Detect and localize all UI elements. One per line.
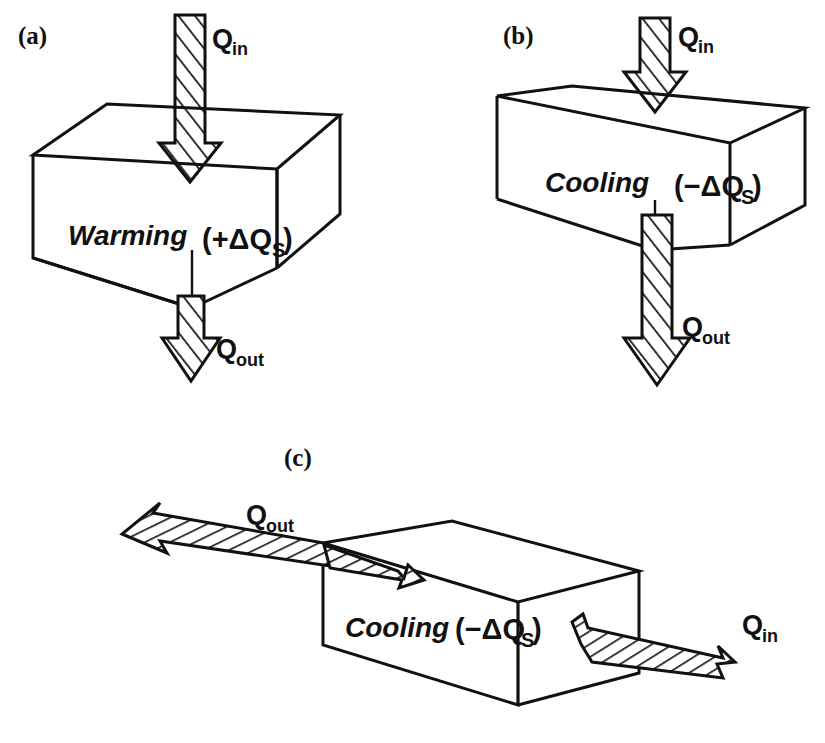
panel-c-label: (c) [284, 444, 312, 472]
panel-b-label: (b) [503, 22, 534, 50]
qout-subscript: out [266, 516, 294, 536]
figure-root: (a) Q in Warming (+ΔQ S [0, 0, 825, 743]
panel-b-storage-expr: (−ΔQ [674, 170, 744, 202]
panel-b-state-word: Cooling [545, 167, 649, 198]
qin-symbol: Q [212, 24, 233, 54]
qout-symbol: Q [682, 312, 703, 342]
qin-subscript: in [232, 39, 248, 59]
heat-storage-diagram: (a) Q in Warming (+ΔQ S [0, 0, 825, 743]
qout-symbol: Q [246, 500, 267, 530]
qin-symbol: Q [678, 22, 699, 52]
panel-c-storage-expr: (−ΔQ [455, 613, 525, 645]
panel-a-label: (a) [18, 22, 47, 50]
qin-subscript: in [698, 37, 714, 57]
panel-b-storage-close: ) [752, 170, 762, 202]
qout-symbol: Q [216, 334, 237, 364]
panel-a-state-word: Warming [68, 220, 187, 251]
qout-subscript: out [236, 350, 264, 370]
qin-symbol: Q [742, 610, 763, 640]
panel-a-storage-expr: (+ΔQ [202, 223, 272, 255]
qout-subscript: out [702, 328, 730, 348]
panel-c-state-word: Cooling [345, 612, 449, 643]
qin-subscript: in [762, 626, 778, 646]
panel-c-storage-close: ) [532, 613, 542, 645]
panel-a-storage-close: ) [283, 223, 293, 255]
